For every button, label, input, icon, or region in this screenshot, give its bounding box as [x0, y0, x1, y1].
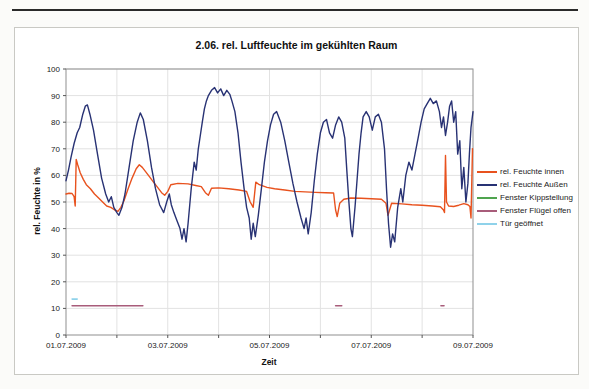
legend-label: Fenster Kippstellung: [500, 193, 573, 202]
legend-item: Tür geöffnet: [477, 217, 573, 230]
y-tick-label: 90: [36, 92, 60, 101]
legend-line-swatch: [477, 210, 497, 212]
legend-item: Fenster Flügel offen: [477, 204, 573, 217]
y-tick-label: 0: [36, 331, 60, 340]
legend-line-swatch: [477, 223, 497, 225]
legend-line-swatch: [477, 184, 497, 186]
x-tick-label: 07.07.2009: [341, 341, 401, 350]
y-axis-title: rel. Feuchte in %: [32, 156, 42, 246]
legend-label: rel. Feuchte innen: [500, 167, 564, 176]
y-tick-label: 20: [36, 278, 60, 287]
x-tick-label: 09.07.2009: [443, 341, 503, 350]
y-tick-label: 80: [36, 118, 60, 127]
y-tick-label: 100: [36, 65, 60, 74]
legend-line-swatch: [477, 171, 497, 173]
legend-line-swatch: [477, 197, 497, 199]
legend-label: Fenster Flügel offen: [500, 206, 571, 215]
y-tick-label: 70: [36, 145, 60, 154]
legend-item: rel. Feuchte Außen: [477, 178, 573, 191]
chart-legend: rel. Feuchte innenrel. Feuchte AußenFens…: [477, 165, 573, 230]
x-tick-label: 01.07.2009: [36, 341, 96, 350]
legend-label: rel. Feuchte Außen: [500, 180, 568, 189]
x-tick-label: 05.07.2009: [240, 341, 300, 350]
y-tick-label: 10: [36, 304, 60, 313]
y-tick-label: 30: [36, 251, 60, 260]
page: 2.06. rel. Luftfeuchte im gekühlten Raum…: [0, 0, 589, 389]
x-tick-label: 03.07.2009: [138, 341, 198, 350]
legend-item: Fenster Kippstellung: [477, 191, 573, 204]
legend-item: rel. Feuchte innen: [477, 165, 573, 178]
legend-label: Tür geöffnet: [500, 219, 543, 228]
x-axis-title: Zeit: [210, 357, 328, 367]
